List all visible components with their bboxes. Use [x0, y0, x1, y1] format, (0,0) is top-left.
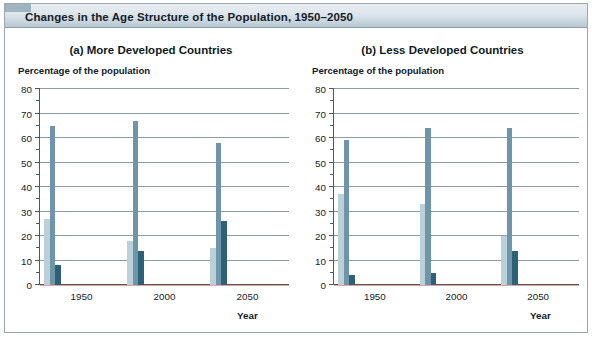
y-axis-tick-label: 20 — [21, 231, 32, 242]
panel-b-y-axis-title: Percentage of the population — [312, 65, 444, 76]
panel-a-plot-area: 01020304050607080195020002050 — [39, 89, 289, 285]
panel-a-x-axis-title: Year — [237, 310, 258, 321]
y-axis-tick-label: 60 — [21, 133, 32, 144]
y-axis-tick-label: 30 — [21, 206, 32, 217]
y-axis-tick-label: 0 — [27, 280, 32, 291]
y-axis-tick-label: 10 — [21, 255, 32, 266]
panel-a-plot-inner: 01020304050607080195020002050 — [39, 89, 289, 285]
x-axis-tick-label: 2000 — [446, 291, 468, 302]
y-axis-tick-label: 50 — [315, 157, 326, 168]
bar-group: 2000 — [123, 89, 206, 285]
x-axis-tick-label: 1950 — [71, 291, 93, 302]
bar-dark-2050 — [512, 251, 518, 285]
y-axis-tick-label: 80 — [21, 84, 32, 95]
y-axis-tick-label: 50 — [21, 157, 32, 168]
bar-medium-2000 — [425, 128, 431, 285]
figure-title-bar: Changes in the Age Structure of the Popu… — [5, 4, 587, 28]
x-axis-underline — [334, 285, 579, 286]
bar-dark-1950 — [55, 265, 61, 285]
panel-b-plot-inner: 01020304050607080195020002050 — [333, 89, 579, 285]
y-axis-tick-label: 40 — [315, 182, 326, 193]
y-axis-tick-label: 0 — [321, 280, 326, 291]
panel-b-x-axis-title: Year — [530, 310, 551, 321]
panel-b-plot-area: 01020304050607080195020002050 — [333, 89, 579, 285]
chart-panel-b: (b) Less Developed Countries Percentage … — [298, 32, 587, 332]
bar-dark-2050 — [221, 221, 227, 285]
panel-a-title: (a) More Developed Countries — [5, 44, 297, 56]
y-axis-tick-label: 10 — [315, 255, 326, 266]
x-axis-underline — [40, 285, 289, 286]
bar-dark-2000 — [431, 273, 437, 285]
bar-dark-1950 — [349, 275, 355, 285]
x-axis-tick-label: 2000 — [154, 291, 176, 302]
y-axis-tick-label: 80 — [315, 84, 326, 95]
bar-medium-1950 — [344, 140, 350, 285]
figure-root: Changes in the Age Structure of the Popu… — [0, 0, 592, 338]
y-axis-tick-label: 30 — [315, 206, 326, 217]
panel-a-y-axis-title: Percentage of the population — [18, 65, 150, 76]
bar-group: 1950 — [334, 89, 416, 285]
panel-b-title: (b) Less Developed Countries — [298, 44, 587, 56]
bar-group: 2050 — [497, 89, 579, 285]
chart-panel-a: (a) More Developed Countries Percentage … — [5, 32, 297, 332]
bar-dark-2000 — [138, 251, 144, 285]
bar-group: 1950 — [40, 89, 123, 285]
y-axis-tick-label: 20 — [315, 231, 326, 242]
y-axis-tick-label: 60 — [315, 133, 326, 144]
y-axis-tick-label: 40 — [21, 182, 32, 193]
x-axis-tick-label: 2050 — [237, 291, 259, 302]
bar-medium-1950 — [50, 126, 56, 285]
x-axis-tick-label: 2050 — [527, 291, 549, 302]
bar-group: 2000 — [416, 89, 498, 285]
bar-group: 2050 — [206, 89, 289, 285]
y-axis-tick-label: 70 — [315, 108, 326, 119]
figure-title: Changes in the Age Structure of the Popu… — [25, 11, 353, 23]
y-axis-tick-label: 70 — [21, 108, 32, 119]
x-axis-tick-label: 1950 — [364, 291, 386, 302]
